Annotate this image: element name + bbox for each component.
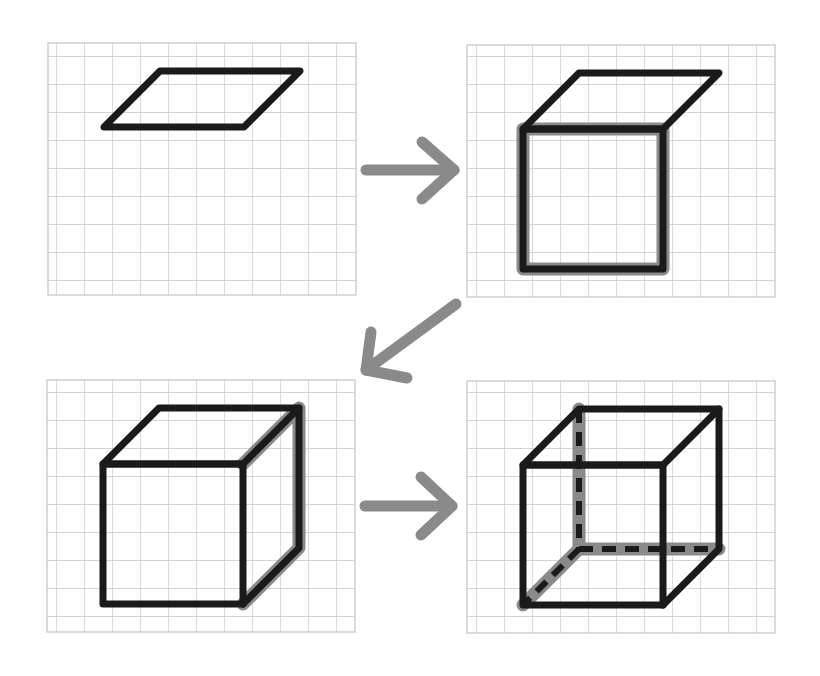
cube-drawing-diagram [0, 0, 820, 676]
arrow-down-left-icon [366, 304, 456, 378]
arrow-right-icon [365, 477, 452, 535]
panel-step-1 [48, 43, 356, 295]
panel-step-3 [47, 380, 355, 632]
grid-paper [47, 380, 355, 632]
panel-step-4 [467, 381, 775, 633]
grid-paper [467, 381, 775, 633]
grid-paper [467, 45, 775, 297]
grid-paper [48, 43, 356, 295]
arrow-right-icon [366, 142, 454, 199]
panel-step-2 [467, 45, 775, 297]
